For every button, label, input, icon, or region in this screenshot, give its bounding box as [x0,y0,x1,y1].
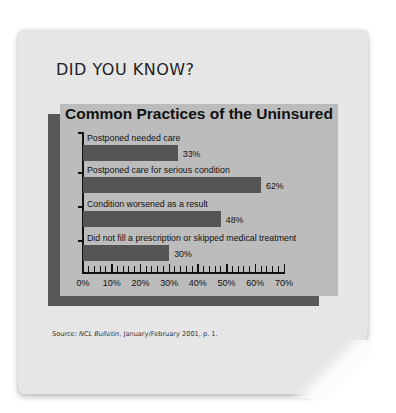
x-minor-tick [128,266,129,272]
x-minor-tick [105,266,106,272]
bar [83,177,261,193]
category-label: Condition worsened as a result [87,199,208,209]
x-tick-label: 60% [246,278,264,288]
x-minor-tick [151,266,152,272]
y-axis-top-tick [78,132,83,134]
category-label: Postponed care for serious condition [87,165,230,175]
source-title: NCL Bulletin [79,330,119,338]
value-label: 62% [266,181,284,191]
x-minor-tick [232,266,233,272]
x-minor-tick [266,266,267,272]
x-axis-line [82,272,285,274]
x-minor-tick [186,266,187,272]
x-minor-tick [174,266,175,272]
source-prefix: Source: [52,330,79,338]
chart-title: Common Practices of the Uninsured [65,105,333,123]
value-label: 33% [183,149,201,159]
bar [83,245,169,261]
x-major-tick [197,264,199,272]
chart-shadow-left [48,114,60,306]
x-minor-tick [134,266,135,272]
x-minor-tick [146,266,147,272]
x-tick-label: 30% [160,278,178,288]
value-label: 30% [174,249,192,259]
category-label: Did not fill a prescription or skipped m… [87,233,296,243]
x-minor-tick [278,266,279,272]
x-minor-tick [157,266,158,272]
x-major-tick [111,264,113,272]
x-minor-tick [123,266,124,272]
x-minor-tick [215,266,216,272]
x-minor-tick [243,266,244,272]
x-major-tick [255,264,257,272]
source-suffix: , January/February 2001, p. 1. [119,330,217,338]
category-tick [78,172,83,174]
x-minor-tick [192,266,193,272]
bar [83,145,178,161]
x-minor-tick [203,266,204,272]
x-minor-tick [220,266,221,272]
source-citation: Source: NCL Bulletin, January/February 2… [52,330,218,338]
x-tick-label: 50% [218,278,236,288]
x-minor-tick [94,266,95,272]
x-major-tick [284,264,286,272]
value-label: 48% [226,215,244,225]
category-tick [78,240,83,242]
bar [83,211,221,227]
x-tick-label: 40% [189,278,207,288]
x-major-tick [83,264,85,272]
x-minor-tick [272,266,273,272]
x-minor-tick [261,266,262,272]
chart-shadow-bottom [48,296,319,306]
x-tick-label: 70% [275,278,293,288]
x-tick-label: 0% [76,278,89,288]
x-minor-tick [209,266,210,272]
x-minor-tick [180,266,181,272]
x-minor-tick [117,266,118,272]
x-minor-tick [249,266,250,272]
category-label: Postponed needed care [87,133,180,143]
x-tick-label: 10% [103,278,121,288]
x-minor-tick [100,266,101,272]
x-minor-tick [88,266,89,272]
x-tick-label: 20% [131,278,149,288]
x-major-tick [226,264,228,272]
category-tick [78,206,83,208]
x-minor-tick [238,266,239,272]
x-major-tick [140,264,142,272]
card-headline: DID YOU KNOW? [56,60,195,79]
x-minor-tick [163,266,164,272]
x-major-tick [169,264,171,272]
